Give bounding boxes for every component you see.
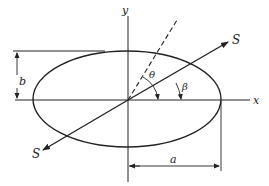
label-theta: θ bbox=[149, 69, 155, 80]
label-x-axis: x bbox=[253, 94, 260, 107]
label-s-start: S bbox=[32, 147, 40, 161]
ellipse-diagram: b a S S θ β y x bbox=[0, 0, 269, 186]
ellipse bbox=[33, 51, 221, 147]
beta-arc bbox=[176, 83, 181, 99]
label-beta: β bbox=[181, 81, 188, 92]
theta-arc bbox=[143, 77, 158, 99]
label-s-end: S bbox=[232, 33, 240, 47]
s-line-forward bbox=[128, 42, 228, 100]
label-y-axis: y bbox=[121, 4, 129, 17]
label-b: b bbox=[19, 75, 26, 88]
label-a: a bbox=[170, 153, 177, 166]
dashed-normal-line bbox=[128, 20, 177, 100]
